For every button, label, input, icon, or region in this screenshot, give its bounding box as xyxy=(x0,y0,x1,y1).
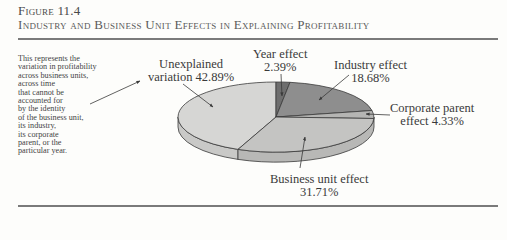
bottom-rule xyxy=(18,205,498,207)
label-industry-value: 18.68% xyxy=(334,72,407,85)
label-corporate-value: effect 4.33% xyxy=(390,115,474,128)
label-unexplained: Unexplained variation 42.89% xyxy=(148,58,234,84)
label-unexplained-value: variation 42.89% xyxy=(148,71,234,84)
label-year-value: 2.39% xyxy=(253,61,307,74)
label-industry: Industry effect 18.68% xyxy=(334,59,407,85)
label-corporate: Corporate parent effect 4.33% xyxy=(390,102,474,128)
label-business-value: 31.71% xyxy=(270,186,368,199)
label-business: Business unit effect 31.71% xyxy=(270,173,368,199)
note-arrow xyxy=(90,81,140,104)
label-year: Year effect 2.39% xyxy=(253,48,307,74)
pie-top xyxy=(178,82,374,152)
